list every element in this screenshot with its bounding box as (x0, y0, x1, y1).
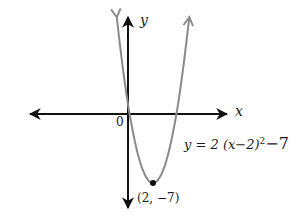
graph (0, 0, 296, 218)
y-axis-label: y (140, 13, 148, 27)
equation-lhs: y = 2 (x−2) (184, 137, 260, 152)
equation-label: y = 2 (x−2)2−7 (184, 136, 289, 152)
vertex-point (150, 180, 156, 186)
equation-rhs: −7 (265, 134, 289, 153)
origin-label: 0 (116, 116, 124, 128)
vertex-label: (2, −7) (137, 192, 179, 204)
x-axis-label: x (235, 104, 243, 118)
